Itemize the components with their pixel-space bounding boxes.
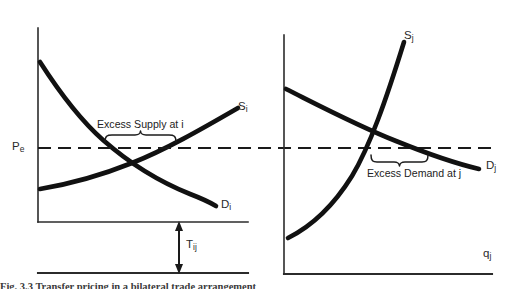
economics-diagram-svg [0,0,511,289]
excess-demand-annotation: Excess Demand at j [367,168,461,179]
figure-caption: Fig. 3.3 Transfer pricing in a bilateral… [0,281,511,289]
left-panel-axes [38,28,248,273]
excess-demand-brace [371,155,428,166]
right-panel-axes [284,35,492,274]
supply-curve-j-label: Sj [404,30,414,43]
demand-curve-i-label: Di [221,199,231,212]
figure-root: Pe Si Di Excess Supply at i Tij Sj Dj Ex… [0,0,511,289]
price-axis-label: Pe [12,141,25,154]
supply-curve-j [288,42,404,238]
quantity-axis-label-j: qj [483,248,492,261]
right-panel-curves [286,42,479,238]
supply-curve-i-label: Si [238,101,248,114]
excess-supply-brace [105,131,176,142]
transport-cost-arrow [175,221,183,274]
transport-cost-label: Tij [186,239,197,252]
excess-supply-annotation: Excess Supply at i [97,119,184,130]
demand-curve-j-label: Dj [486,160,496,173]
